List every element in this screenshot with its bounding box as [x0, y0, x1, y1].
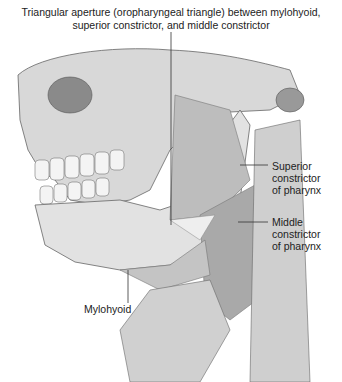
label-line: of pharynx [272, 240, 321, 252]
label-line: constrictor [272, 172, 321, 184]
ear-canal [276, 88, 304, 112]
label-line: of pharynx [272, 184, 321, 196]
label-mylohyoid: Mylohyoid [84, 303, 131, 315]
label-middle-constrictor: Middle constrictor of pharynx [272, 216, 321, 252]
label-line: Middle [272, 216, 321, 228]
label-line: constrictor [272, 228, 321, 240]
orbit [48, 77, 92, 113]
label-superior-constrictor: Superior constrictor of pharynx [272, 160, 321, 196]
label-line: Superior [272, 160, 321, 172]
larynx [120, 280, 230, 382]
